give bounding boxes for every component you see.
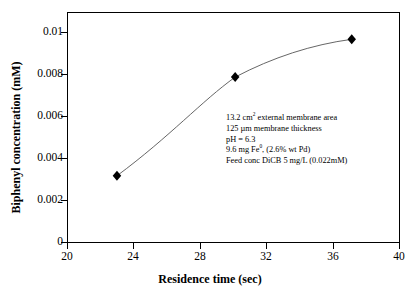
annotation-line1-post: external membrane area bbox=[255, 113, 337, 122]
annotation-line1-pre: 13.2 cm bbox=[226, 113, 253, 122]
data-point-marker bbox=[347, 34, 356, 44]
y-tick-label: 0.002 bbox=[37, 194, 63, 206]
annotation-line4-post: , (2.6% wt Pd) bbox=[262, 145, 310, 154]
annotation-line-iron-loading: 9.6 mg Fe0, (2.6% wt Pd) bbox=[226, 145, 347, 156]
data-point-marker bbox=[231, 72, 240, 82]
y-tick-label: 0.008 bbox=[37, 68, 63, 80]
y-tick-label: 0 bbox=[57, 236, 63, 248]
x-tick-mark bbox=[399, 243, 400, 249]
x-tick-label: 36 bbox=[313, 251, 353, 263]
annotation-line-membrane-area: 13.2 cm2 external membrane area bbox=[226, 113, 347, 124]
chart-figure: 0 0.002 0.004 0.006 0.008 0.01 20 24 28 … bbox=[0, 0, 420, 296]
x-tick-label: 32 bbox=[246, 251, 286, 263]
x-tick-mark bbox=[133, 243, 134, 249]
y-tick-label: 0.004 bbox=[37, 152, 63, 164]
x-tick-mark bbox=[200, 243, 201, 249]
annotation-line-membrane-thickness: 125 µm membrane thickness bbox=[226, 124, 347, 135]
x-tick-label: 40 bbox=[379, 251, 419, 263]
y-tick-label: 0.006 bbox=[37, 110, 63, 122]
x-tick-mark bbox=[67, 243, 68, 249]
annotation-line4-pre: 9.6 mg Fe bbox=[226, 145, 259, 154]
experimental-conditions-annotation: 13.2 cm2 external membrane area 125 µm m… bbox=[226, 113, 347, 167]
x-tick-label: 24 bbox=[113, 251, 153, 263]
x-tick-label: 20 bbox=[47, 251, 87, 263]
y-axis-title-text: Biphenyl concentration (mM) bbox=[9, 61, 24, 213]
annotation-line-feed-concentration: Feed conc DiCB 5 mg/L (0.022mM) bbox=[226, 156, 347, 167]
x-tick-label: 28 bbox=[180, 251, 220, 263]
y-axis-title: Biphenyl concentration (mM) bbox=[8, 0, 24, 296]
annotation-line-ph: pH = 6.3 bbox=[226, 135, 347, 146]
x-axis-title: Residence time (sec) bbox=[0, 272, 420, 287]
y-tick-label: 0.01 bbox=[43, 26, 63, 38]
data-point-marker bbox=[113, 171, 122, 181]
x-tick-mark bbox=[333, 243, 334, 249]
x-tick-mark bbox=[266, 243, 267, 249]
